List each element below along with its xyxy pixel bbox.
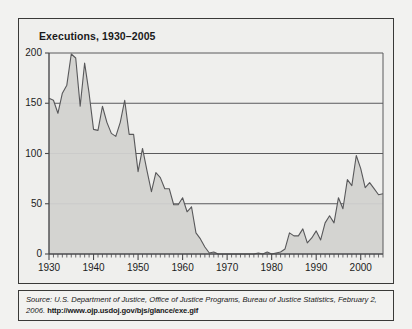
x-axis-tick-label-1950: 1950 xyxy=(118,262,158,273)
x-axis-tick-label-1970: 1970 xyxy=(207,262,247,273)
x-axis-tick-label-2000: 2000 xyxy=(341,262,381,273)
x-axis-tick-label-1960: 1960 xyxy=(163,262,203,273)
x-axis-tick-label-1930: 1930 xyxy=(29,262,69,273)
source-url-link[interactable]: http://www.ojp.usdoj.gov/bjs/glance/exe.… xyxy=(47,306,198,315)
y-axis-tick-label-0: 0 xyxy=(16,248,42,259)
source-label: Source: xyxy=(26,295,52,304)
plot-area: 0501001502001930194019501960197019801990… xyxy=(19,19,395,285)
area-fill xyxy=(49,54,383,254)
source-panel: Source: U.S. Department of Justice, Offi… xyxy=(18,290,394,321)
executions-area-chart xyxy=(19,19,395,285)
y-axis-tick-label-200: 200 xyxy=(16,47,42,58)
y-axis-tick-label-150: 150 xyxy=(16,97,42,108)
x-axis-tick-label-1940: 1940 xyxy=(74,262,114,273)
figure-container: Executions, 1930–2005 050100150200193019… xyxy=(0,0,412,329)
x-axis-tick-label-1980: 1980 xyxy=(252,262,292,273)
source-note: Source: U.S. Department of Justice, Offi… xyxy=(26,295,386,316)
x-axis-tick-label-1990: 1990 xyxy=(296,262,336,273)
chart-panel: Executions, 1930–2005 050100150200193019… xyxy=(18,18,394,284)
y-axis-tick-label-100: 100 xyxy=(16,148,42,159)
y-axis-tick-label-50: 50 xyxy=(16,198,42,209)
